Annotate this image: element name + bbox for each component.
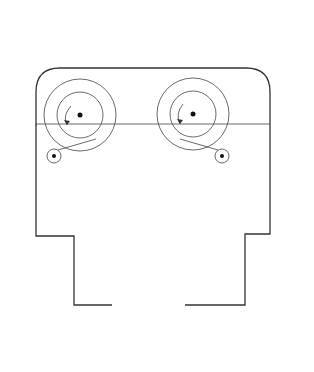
right-reel-final <box>157 78 229 150</box>
right-reel-hub <box>191 112 196 117</box>
idler-rollers <box>47 139 229 163</box>
left-reel-final <box>44 79 116 151</box>
left-reel-hub <box>78 113 83 118</box>
aerial-camera-diagram <box>0 0 314 372</box>
camera-housing <box>36 68 270 305</box>
